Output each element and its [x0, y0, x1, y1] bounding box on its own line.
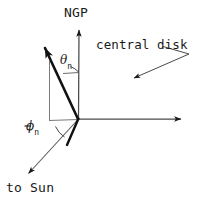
central-disk-label: central disk	[96, 39, 188, 52]
horizontal-baseline	[49, 120, 79, 121]
ngp-axis-label: NGP	[64, 6, 88, 19]
theta-subscript: n	[67, 62, 72, 71]
phi-angle-label: ϕn	[26, 120, 39, 135]
phi-symbol: ϕ	[26, 119, 34, 133]
to-sun-label: to Sun	[6, 181, 54, 194]
n-vector-projection-line	[67, 119, 79, 146]
theta-tick-line	[63, 73, 79, 74]
diagram-canvas	[0, 0, 198, 206]
vector-geometry-diagram: NGP central disk to Sun θn ϕn	[0, 0, 198, 206]
central-disk-arrow-line	[134, 54, 189, 78]
phi-subscript: n	[34, 128, 39, 137]
ngp-axis-line	[79, 30, 80, 119]
theta-angle-label: θn	[60, 54, 72, 69]
